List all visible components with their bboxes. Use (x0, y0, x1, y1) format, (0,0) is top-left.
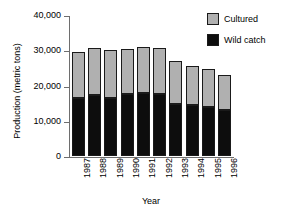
bar-segment-wild-catch (186, 105, 199, 156)
legend-label-wild-catch: Wild catch (224, 35, 266, 45)
x-tick-label-1992: 1992 (164, 158, 174, 178)
bar-segment-wild-catch (88, 95, 101, 156)
legend-item-wild-catch: Wild catch (207, 34, 266, 46)
bar-1994 (186, 66, 199, 156)
bar-1992 (153, 48, 166, 156)
chart-legend: Cultured Wild catch (207, 13, 266, 55)
bar-segment-cultured (169, 61, 182, 104)
y-tick-label: 20,000 (33, 81, 61, 91)
y-tick-label: 40,000 (33, 10, 61, 20)
bar-segment-wild-catch (153, 94, 166, 156)
x-tick-label-1991: 1991 (147, 158, 157, 178)
stacked-bar-chart: Production (metric tons) 010,00020,00030… (0, 0, 297, 212)
bar-segment-cultured (72, 52, 85, 97)
y-tick-label: 10,000 (33, 116, 61, 126)
x-tick-label-1989: 1989 (115, 158, 125, 178)
y-tick-40000: 40,000 (64, 16, 69, 17)
legend-label-cultured: Cultured (224, 14, 258, 24)
x-tick-label-1994: 1994 (196, 158, 206, 178)
bar-1990 (121, 49, 134, 157)
x-tick-label-1995: 1995 (213, 158, 223, 178)
x-tick-label-1996: 1996 (229, 158, 239, 178)
x-axis-tick-labels: 1987198819891990199119921993199419951996 (70, 158, 234, 192)
bar-segment-wild-catch (104, 98, 117, 156)
bar-segment-cultured (153, 48, 166, 95)
bar-segment-wild-catch (218, 110, 231, 156)
x-tick-label-1993: 1993 (180, 158, 190, 178)
bar-segment-wild-catch (137, 93, 150, 156)
legend-swatch-cultured (207, 13, 219, 25)
bar-1995 (202, 69, 215, 156)
y-tick-20000: 20,000 (64, 87, 69, 88)
bar-1991 (137, 47, 150, 156)
bar-1993 (169, 60, 182, 156)
bar-segment-cultured (218, 75, 231, 110)
bar-segment-cultured (202, 69, 215, 108)
bar-segment-cultured (137, 47, 150, 93)
bar-segment-wild-catch (169, 104, 182, 156)
bar-1987 (72, 52, 85, 156)
bar-segment-cultured (88, 48, 101, 96)
x-axis-title: Year (69, 196, 233, 206)
y-tick-label: 30,000 (33, 45, 61, 55)
bar-segment-cultured (186, 66, 199, 105)
bar-1988 (88, 48, 101, 156)
bar-segment-cultured (121, 49, 134, 94)
x-tick-label-1988: 1988 (98, 158, 108, 178)
bar-segment-wild-catch (72, 98, 85, 157)
y-tick-10000: 10,000 (64, 122, 69, 123)
y-tick-label: 0 (56, 151, 61, 161)
bar-1989 (104, 50, 117, 156)
x-tick-label-1987: 1987 (82, 158, 92, 178)
bar-segment-cultured (104, 50, 117, 98)
y-tick-0: 0 (64, 157, 69, 158)
legend-swatch-wild-catch (207, 34, 219, 46)
legend-item-cultured: Cultured (207, 13, 266, 25)
y-axis-title: Production (metric tons) (12, 16, 22, 166)
bar-segment-wild-catch (121, 94, 134, 156)
x-tick-label-1990: 1990 (131, 158, 141, 178)
y-tick-30000: 30,000 (64, 51, 69, 52)
bar-1996 (218, 75, 231, 156)
bar-segment-wild-catch (202, 107, 215, 156)
